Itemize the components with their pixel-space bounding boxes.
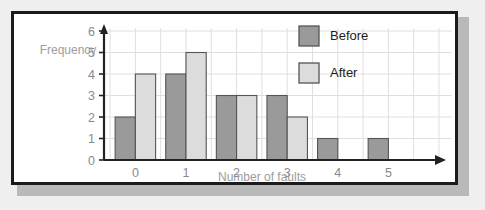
x-axis-title: Number of faults bbox=[218, 170, 306, 182]
y-axis-tick-label: 3 bbox=[88, 89, 95, 103]
bar bbox=[186, 53, 206, 161]
chart-panel: 0123456 012345 Frequency Number of fault… bbox=[11, 11, 458, 185]
y-axis-tick-label: 1 bbox=[88, 132, 95, 146]
bar bbox=[267, 96, 287, 161]
y-axis-tick-label: 4 bbox=[88, 68, 95, 82]
legend-label: After bbox=[330, 65, 358, 80]
x-axis-tick-label: 5 bbox=[385, 166, 392, 180]
chart-svg: 0123456 012345 Frequency Number of fault… bbox=[14, 14, 455, 182]
y-axis-tick-label: 2 bbox=[88, 111, 95, 125]
bar bbox=[135, 74, 155, 160]
legend-swatch bbox=[299, 63, 319, 83]
x-axis-tick-label: 1 bbox=[183, 166, 190, 180]
bar bbox=[166, 74, 186, 160]
y-axis-title: Frequency bbox=[40, 43, 97, 57]
bar bbox=[287, 117, 307, 160]
y-axis-arrowhead bbox=[100, 24, 108, 34]
legend-label: Before bbox=[330, 28, 368, 43]
bar-chart: 0123456 012345 Frequency Number of fault… bbox=[14, 14, 455, 182]
y-axis-tick-label: 6 bbox=[88, 25, 95, 39]
x-axis-tick-label: 4 bbox=[334, 166, 341, 180]
x-axis-arrowhead bbox=[435, 155, 446, 165]
legend-swatch bbox=[299, 26, 319, 46]
bar bbox=[115, 117, 135, 160]
bar bbox=[216, 96, 236, 161]
bar bbox=[368, 139, 388, 161]
bar bbox=[237, 96, 257, 161]
bar bbox=[318, 139, 338, 161]
y-axis-tick-label: 0 bbox=[88, 154, 95, 168]
page-root: 0123456 012345 Frequency Number of fault… bbox=[0, 0, 485, 210]
x-axis-tick-label: 0 bbox=[132, 166, 139, 180]
